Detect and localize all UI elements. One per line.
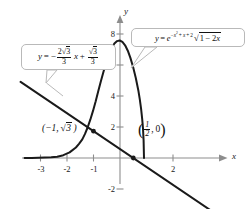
- y-tick-label-8: 8: [104, 29, 115, 39]
- x-tick-label-2: 2: [165, 164, 181, 174]
- y-tick-label--2: -2: [99, 184, 115, 194]
- y-tick-label-2: 2: [104, 122, 115, 132]
- callout-tail-curve: [131, 47, 157, 68]
- x-intercept-point-label: (12, 0): [138, 121, 166, 138]
- x-tick-label--2: -2: [58, 164, 76, 174]
- y-axis-label: y: [124, 6, 128, 16]
- tangency-point-marker: [91, 129, 96, 134]
- y-tick-label-4: 4: [104, 91, 115, 101]
- paren-open: (: [138, 121, 143, 138]
- tangency-point-text: (−1, √3 ): [42, 123, 77, 133]
- x-tick-label--1: -1: [85, 164, 103, 174]
- callout-leader-line: [47, 83, 64, 96]
- callout-line-equation: y = −2√33 x + √33: [21, 44, 116, 70]
- x-axis-arrow: [219, 155, 228, 162]
- tangent-line: [21, 82, 222, 209]
- callout-tail-line: [46, 70, 57, 83]
- tangency-point-label: (−1, √3 ): [42, 124, 77, 134]
- graph-figure: x y -3 -2 -1 2 8 4 2 -2 (−1, √3 ) (12, 0…: [0, 0, 252, 209]
- line-equation-text: y = −2√33 x + √33: [38, 48, 99, 65]
- comma-zero: , 0: [151, 124, 160, 134]
- callout-curve-equation: y = e−x2 + x + 2√1 − 2x: [131, 28, 245, 47]
- x-intercept-point-marker: [131, 156, 136, 161]
- y-axis-arrow: [117, 15, 124, 23]
- x-tick-label--3: -3: [32, 164, 50, 174]
- paren-close: ): [160, 121, 165, 138]
- curve-equation-text: y = e−x2 + x + 2√1 − 2x: [155, 33, 221, 43]
- x-axis-label: x: [232, 151, 236, 161]
